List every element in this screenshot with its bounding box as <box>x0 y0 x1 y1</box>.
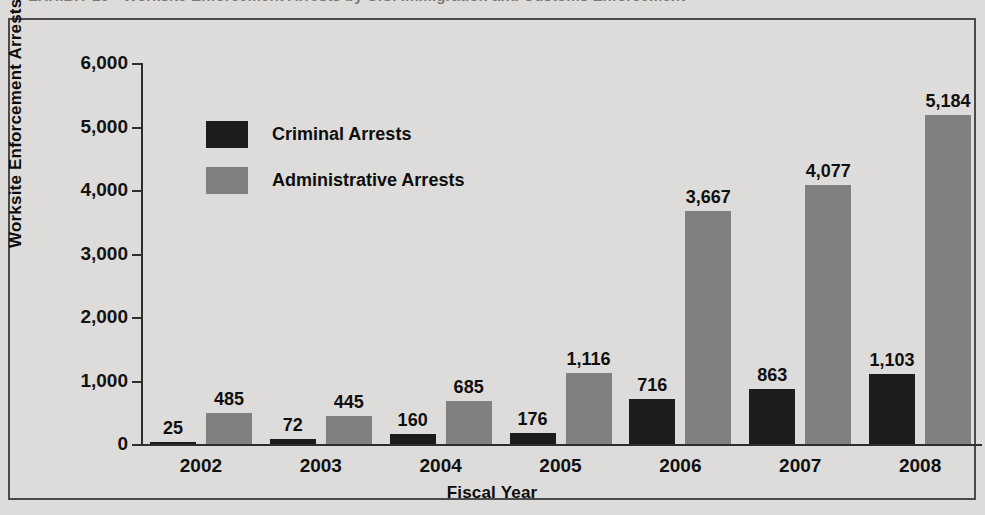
y-tick-mark <box>132 190 141 192</box>
bar-value-label: 176 <box>517 409 547 430</box>
bar-criminal[interactable]: 176 <box>510 433 556 444</box>
bar-value-label: 1,103 <box>870 350 915 371</box>
x-tick-label: 2008 <box>860 455 980 477</box>
bar-value-label: 485 <box>214 389 244 410</box>
legend-swatch-administrative <box>206 167 248 194</box>
y-tick-label: 0 <box>117 433 128 455</box>
legend-item[interactable]: Administrative Arrests <box>206 167 464 194</box>
bar-value-label: 72 <box>283 415 303 436</box>
bar-criminal[interactable]: 160 <box>390 434 436 444</box>
bar-criminal[interactable]: 1,103 <box>869 374 915 444</box>
bar-group: 7163,6672006 <box>620 63 740 444</box>
x-tick-label: 2004 <box>381 455 501 477</box>
bar-value-label: 445 <box>334 392 364 413</box>
y-tick-mark <box>132 63 141 65</box>
x-axis-title: Fiscal Year <box>10 483 974 503</box>
y-tick-label: 4,000 <box>80 179 128 201</box>
x-axis-line <box>141 444 982 446</box>
bar-value-label: 716 <box>637 375 667 396</box>
bar-administrative[interactable]: 485 <box>206 413 252 444</box>
y-tick-label: 1,000 <box>80 370 128 392</box>
x-tick-label: 2003 <box>261 455 381 477</box>
exhibit-title: EXHIBIT 25 • Worksite Enforcement Arrest… <box>28 0 685 4</box>
y-tick-label: 6,000 <box>80 52 128 74</box>
y-tick-label: 2,000 <box>80 306 128 328</box>
bar-administrative[interactable]: 1,116 <box>566 373 612 444</box>
x-tick-label: 2006 <box>620 455 740 477</box>
bar-criminal[interactable]: 863 <box>749 389 795 444</box>
bar-administrative[interactable]: 685 <box>446 401 492 444</box>
legend-label: Administrative Arrests <box>272 170 464 191</box>
x-tick-label: 2002 <box>141 455 261 477</box>
figure-frame: Worksite Enforcement Arrests 01,0002,000… <box>8 18 976 500</box>
y-tick-label: 3,000 <box>80 243 128 265</box>
bar-criminal[interactable]: 25 <box>150 442 196 444</box>
bar-value-label: 5,184 <box>926 91 971 112</box>
y-tick-mark <box>132 254 141 256</box>
bar-value-label: 25 <box>163 418 183 439</box>
bar-administrative[interactable]: 3,667 <box>685 211 731 444</box>
y-axis-title: Worksite Enforcement Arrests <box>6 0 26 248</box>
bar-value-label: 863 <box>757 365 787 386</box>
y-tick-mark <box>132 444 141 446</box>
bar-group: 8634,0772007 <box>740 63 860 444</box>
bar-value-label: 1,116 <box>566 349 610 370</box>
bar-value-label: 4,077 <box>806 161 851 182</box>
bar-group: 1,1035,1842008 <box>860 63 980 444</box>
chart-legend: Criminal ArrestsAdministrative Arrests <box>206 121 464 213</box>
bar-criminal[interactable]: 716 <box>629 399 675 444</box>
bar-administrative[interactable]: 4,077 <box>805 185 851 444</box>
y-tick-mark <box>132 317 141 319</box>
bar-criminal[interactable]: 72 <box>270 439 316 444</box>
y-tick-mark <box>132 127 141 129</box>
bar-group: 1761,1162005 <box>501 63 621 444</box>
x-tick-label: 2005 <box>501 455 621 477</box>
y-tick-label: 5,000 <box>80 116 128 138</box>
x-tick-label: 2007 <box>740 455 860 477</box>
bar-administrative[interactable]: 445 <box>326 416 372 444</box>
bar-value-label: 685 <box>454 377 484 398</box>
y-tick-mark <box>132 381 141 383</box>
legend-swatch-criminal <box>206 121 248 148</box>
legend-label: Criminal Arrests <box>272 124 411 145</box>
legend-item[interactable]: Criminal Arrests <box>206 121 464 148</box>
bar-administrative[interactable]: 5,184 <box>925 115 971 444</box>
bar-value-label: 3,667 <box>686 187 731 208</box>
bar-value-label: 160 <box>398 410 428 431</box>
